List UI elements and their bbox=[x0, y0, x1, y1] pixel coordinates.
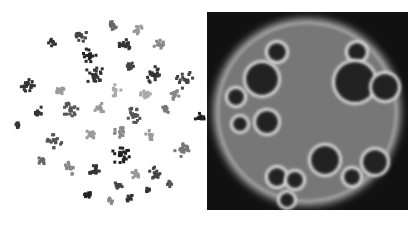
cluster-node bbox=[194, 112, 206, 121]
cluster-node bbox=[15, 122, 21, 129]
density-hole bbox=[268, 168, 286, 186]
cluster-node bbox=[82, 48, 98, 64]
cluster-node bbox=[127, 107, 142, 124]
cluster-node bbox=[34, 106, 43, 117]
cluster-node bbox=[146, 65, 161, 84]
cluster-node bbox=[94, 102, 105, 113]
cluster-node bbox=[88, 164, 101, 175]
cluster-scatter-panel bbox=[0, 0, 206, 225]
density-hole bbox=[335, 62, 375, 102]
density-hole bbox=[287, 172, 303, 188]
cluster-node bbox=[173, 142, 190, 158]
cluster-node bbox=[64, 161, 75, 176]
cluster-node bbox=[107, 197, 114, 205]
cluster-node bbox=[75, 31, 88, 43]
cluster-node bbox=[111, 147, 130, 165]
cluster-node bbox=[38, 157, 46, 166]
density-map-panel bbox=[207, 12, 408, 210]
cluster-node bbox=[144, 129, 153, 141]
cluster-node bbox=[85, 67, 103, 83]
density-hole bbox=[363, 150, 387, 174]
cluster-node bbox=[133, 25, 144, 36]
cluster-node bbox=[46, 133, 63, 149]
cluster-node bbox=[131, 169, 140, 179]
cluster-node bbox=[83, 191, 92, 198]
density-hole bbox=[348, 43, 366, 61]
cluster-node bbox=[47, 38, 57, 48]
density-hole bbox=[256, 111, 278, 133]
density-hole bbox=[344, 169, 360, 185]
cluster-node bbox=[126, 194, 134, 203]
cluster-node bbox=[145, 187, 151, 193]
cluster-node bbox=[175, 71, 194, 90]
density-hole bbox=[311, 146, 339, 174]
cluster-node bbox=[86, 130, 96, 140]
cluster-node bbox=[148, 166, 161, 180]
cluster-node bbox=[109, 20, 118, 31]
cluster-scatter-plot bbox=[0, 0, 206, 225]
cluster-node bbox=[20, 78, 36, 92]
cluster-node bbox=[161, 105, 169, 114]
cluster-node bbox=[126, 62, 135, 71]
cluster-node bbox=[63, 102, 79, 118]
density-hole bbox=[280, 193, 294, 207]
density-hole bbox=[268, 43, 286, 61]
density-hole bbox=[246, 63, 278, 95]
density-hole bbox=[228, 89, 244, 105]
density-hole bbox=[233, 117, 247, 131]
cluster-node bbox=[139, 90, 152, 100]
density-map-plot bbox=[207, 12, 408, 210]
cluster-node bbox=[55, 87, 65, 95]
cluster-node bbox=[118, 38, 131, 50]
cluster-node bbox=[170, 89, 181, 101]
cluster-node bbox=[113, 126, 125, 139]
density-hole bbox=[372, 74, 398, 100]
cluster-node bbox=[153, 39, 165, 50]
cluster-node bbox=[114, 182, 124, 190]
cluster-node bbox=[112, 83, 123, 97]
cluster-node bbox=[166, 180, 173, 188]
